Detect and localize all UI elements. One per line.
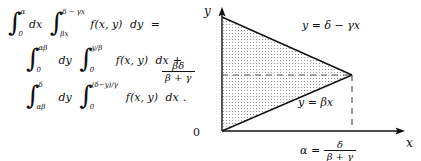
fraction-numerator: βδ	[162, 60, 195, 71]
integral-equation-line-2: ∫αβ0 dy ∫y/β0 f(x, y) dx+	[26, 54, 182, 67]
outer-differential: dy	[55, 54, 76, 67]
y-intercept-label: βδ β + γ	[162, 60, 195, 83]
y-axis-label: y	[204, 4, 211, 18]
outer-lower-limit: 0	[37, 66, 41, 74]
integration-region	[222, 17, 352, 131]
integral-equation-line-3: ∫δαβ dy ∫(δ−y)/γ0 f(x, y) dx.	[26, 91, 186, 104]
line-trailer: =	[151, 18, 160, 31]
inner-upper-limit: δ − γx	[62, 8, 85, 16]
integrand: f(x, y)	[90, 18, 122, 31]
y-intercept-fraction: βδ β + γ	[162, 60, 195, 83]
inner-lower-limit: βx	[60, 30, 68, 38]
integrand: f(x, y)	[116, 54, 148, 67]
inner-lower-limit: 0	[90, 66, 94, 74]
x-axis-label: x	[406, 136, 413, 150]
inner-upper-limit: (δ−y)/γ	[92, 81, 118, 89]
fraction-denominator: β + γ	[162, 71, 195, 83]
region-plot: y x 0 y = δ − γx y = βx βδ β + γ α = δ β…	[190, 0, 421, 161]
integrand: f(x, y)	[126, 91, 158, 104]
x-intercept-fraction: δ β + γ	[324, 139, 357, 161]
x-intercept-label: α = δ β + γ	[300, 139, 356, 161]
outer-differential: dy	[55, 91, 76, 104]
inner-upper-limit: y/β	[92, 44, 102, 52]
origin-label: 0	[193, 126, 200, 139]
x-intercept-prefix: α =	[300, 144, 320, 157]
fraction-numerator: δ	[324, 139, 357, 150]
integral-equation-line-1: ∫α0 dx ∫δ − γxβx f(x, y) dy =	[8, 18, 160, 31]
outer-upper-limit: α	[21, 8, 26, 16]
line-trailer: .	[183, 91, 187, 104]
inner-lower-limit: 0	[90, 103, 94, 111]
lower-boundary-label: y = βx	[298, 96, 333, 109]
figure-page: ∫α0 dx ∫δ − γxβx f(x, y) dy = ∫αβ0 dy ∫y…	[0, 0, 421, 161]
outer-lower-limit: 0	[19, 30, 23, 38]
inner-differential: dx	[161, 91, 182, 104]
outer-differential: dx	[25, 18, 46, 31]
outer-lower-limit: αβ	[37, 103, 46, 111]
upper-boundary-label: y = δ − γx	[302, 19, 360, 32]
inner-differential: dy	[126, 18, 147, 31]
outer-upper-limit: αβ	[39, 44, 48, 52]
outer-upper-limit: δ	[39, 81, 43, 89]
fraction-denominator: β + γ	[324, 150, 357, 161]
